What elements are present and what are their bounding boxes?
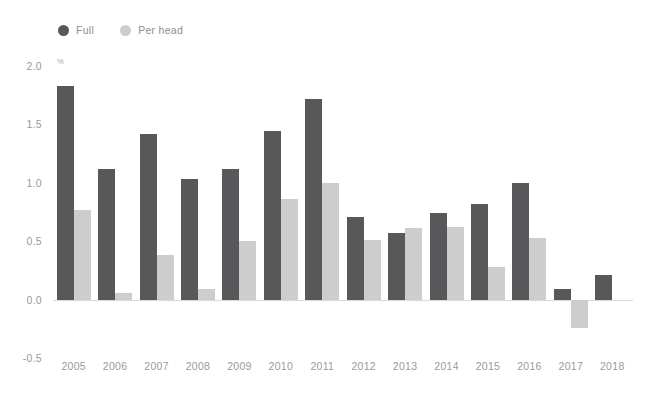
x-axis-tick-label: 2010 xyxy=(260,360,301,372)
plot-area: % 2.01.51.00.50.0-0.5 xyxy=(53,66,633,358)
bar-full-2014[interactable] xyxy=(430,213,447,299)
legend-item-per-head[interactable]: Per head xyxy=(120,24,183,36)
bar-full-2016[interactable] xyxy=(512,183,529,300)
bar-full-2008[interactable] xyxy=(181,179,198,299)
bar-per-head-2017[interactable] xyxy=(571,300,588,328)
x-axis-tick-label: 2007 xyxy=(136,360,177,372)
bar-group xyxy=(467,66,508,358)
bar-per-head-2012[interactable] xyxy=(364,240,381,300)
x-axis-tick-label: 2005 xyxy=(53,360,94,372)
x-axis-tick-label: 2014 xyxy=(426,360,467,372)
x-axis-tick-label: 2011 xyxy=(302,360,343,372)
legend-item-label: Per head xyxy=(138,24,183,36)
bar-group xyxy=(592,66,633,358)
x-axis-tick-label: 2015 xyxy=(467,360,508,372)
bar-full-2017[interactable] xyxy=(554,289,571,300)
bar-per-head-2006[interactable] xyxy=(115,293,132,300)
y-axis-tick-label: 0.0 xyxy=(27,294,43,306)
bar-full-2009[interactable] xyxy=(222,169,239,300)
bar-per-head-2014[interactable] xyxy=(447,227,464,299)
chart-legend: FullPer head xyxy=(58,21,183,39)
legend-circle-icon xyxy=(120,25,131,36)
x-axis-tick-label: 2018 xyxy=(592,360,633,372)
x-axis-tick-label: 2009 xyxy=(219,360,260,372)
bar-per-head-2008[interactable] xyxy=(198,289,215,300)
bar-per-head-2011[interactable] xyxy=(322,183,339,300)
bar-full-2005[interactable] xyxy=(57,86,74,300)
bar-group xyxy=(550,66,591,358)
x-axis-tick-label: 2013 xyxy=(384,360,425,372)
x-axis: 2005200620072008200920102011201220132014… xyxy=(53,360,633,380)
y-axis-tick-label: 1.0 xyxy=(27,177,43,189)
x-axis-tick-label: 2012 xyxy=(343,360,384,372)
y-axis-tick-label: 0.5 xyxy=(27,235,43,247)
y-axis-unit-label: % xyxy=(57,57,64,66)
bar-per-head-2013[interactable] xyxy=(405,228,422,299)
bars-layer xyxy=(53,66,633,358)
bar-group xyxy=(260,66,301,358)
bar-group xyxy=(302,66,343,358)
x-axis-tick-label: 2016 xyxy=(509,360,550,372)
bar-full-2010[interactable] xyxy=(264,131,281,299)
bar-full-2018[interactable] xyxy=(595,275,612,300)
legend-item-full[interactable]: Full xyxy=(58,24,94,36)
bar-group xyxy=(426,66,467,358)
bar-group xyxy=(177,66,218,358)
bar-per-head-2016[interactable] xyxy=(529,238,546,300)
bar-full-2012[interactable] xyxy=(347,217,364,300)
bar-group xyxy=(509,66,550,358)
bar-group xyxy=(219,66,260,358)
y-axis-tick-label: 1.5 xyxy=(27,118,43,130)
bar-full-2011[interactable] xyxy=(305,99,322,300)
bar-per-head-2005[interactable] xyxy=(74,210,91,300)
bar-per-head-2015[interactable] xyxy=(488,267,505,300)
x-axis-tick-label: 2006 xyxy=(94,360,135,372)
bar-per-head-2010[interactable] xyxy=(281,199,298,299)
bar-full-2015[interactable] xyxy=(471,204,488,300)
bar-full-2013[interactable] xyxy=(388,233,405,300)
y-axis-tick-label: 2.0 xyxy=(27,60,43,72)
x-axis-tick-label: 2017 xyxy=(550,360,591,372)
y-axis-tick-label: -0.5 xyxy=(23,352,42,364)
legend-circle-icon xyxy=(58,25,69,36)
bar-full-2006[interactable] xyxy=(98,169,115,300)
bar-chart: FullPer head % 2.01.51.00.50.0-0.5 20052… xyxy=(0,0,646,399)
bar-full-2007[interactable] xyxy=(140,134,157,300)
legend-item-label: Full xyxy=(76,24,94,36)
bar-group xyxy=(343,66,384,358)
bar-per-head-2007[interactable] xyxy=(157,255,174,299)
bar-per-head-2009[interactable] xyxy=(239,241,256,299)
bar-group xyxy=(94,66,135,358)
bar-group xyxy=(384,66,425,358)
x-axis-tick-label: 2008 xyxy=(177,360,218,372)
bar-group xyxy=(136,66,177,358)
bar-group xyxy=(53,66,94,358)
